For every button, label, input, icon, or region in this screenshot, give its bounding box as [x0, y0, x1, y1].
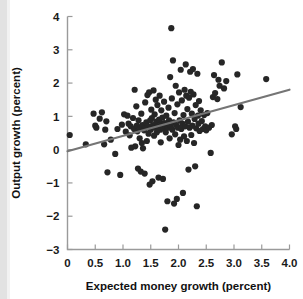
data-point — [93, 125, 99, 131]
data-point — [196, 98, 202, 104]
x-tick-label: 4.0 — [282, 257, 298, 269]
scatter-plot: 00.51.01.52.02.53.03.54.0−3−2−101234Expe… — [0, 0, 303, 299]
y-tick-label: −2 — [46, 210, 59, 222]
data-point — [180, 190, 186, 196]
y-tick-label: 4 — [53, 11, 60, 23]
data-point — [165, 105, 171, 111]
data-point — [150, 87, 156, 93]
data-point — [117, 172, 123, 178]
x-tick-label: 2.5 — [198, 257, 215, 269]
x-tick-label: 3.5 — [254, 257, 271, 269]
data-point — [212, 90, 218, 96]
data-point — [183, 61, 189, 67]
data-point — [168, 25, 174, 31]
x-tick-label: 2.0 — [171, 257, 187, 269]
data-point — [190, 66, 196, 72]
y-axis-title: Output growth (percent) — [10, 67, 22, 199]
data-point — [102, 127, 108, 133]
data-point — [194, 71, 200, 77]
data-point — [233, 126, 239, 132]
data-point — [223, 78, 229, 84]
x-tick-label: 1.0 — [115, 257, 131, 269]
data-point — [67, 132, 73, 138]
data-point — [142, 99, 148, 105]
data-point — [162, 226, 168, 232]
data-point — [172, 110, 178, 116]
data-point — [211, 72, 217, 78]
data-point — [170, 57, 176, 63]
data-point — [178, 67, 184, 73]
data-point — [184, 138, 190, 144]
data-point — [157, 93, 163, 99]
data-point — [215, 77, 221, 83]
data-point — [149, 178, 155, 184]
data-point — [160, 176, 166, 182]
data-point — [190, 91, 196, 97]
data-point — [158, 139, 164, 145]
data-point — [185, 167, 191, 173]
data-point — [133, 103, 139, 109]
data-point — [144, 138, 150, 144]
data-point — [138, 111, 144, 117]
data-point — [234, 71, 240, 77]
data-point — [154, 102, 160, 108]
y-tick-label: −1 — [46, 177, 60, 189]
axes — [68, 17, 290, 250]
x-tick-label: 3.0 — [226, 257, 242, 269]
y-tick-label: −3 — [46, 244, 59, 256]
data-point — [99, 109, 105, 115]
data-point — [229, 131, 235, 137]
chart-figure: 00.51.01.52.02.53.03.54.0−3−2−101234Expe… — [0, 0, 303, 299]
data-point — [119, 122, 125, 128]
data-point — [130, 115, 136, 121]
data-point — [184, 106, 190, 112]
data-point — [114, 126, 120, 132]
data-points — [67, 25, 270, 233]
data-point — [188, 132, 194, 138]
data-point — [194, 203, 200, 209]
data-point — [180, 112, 186, 118]
data-point — [112, 151, 118, 157]
data-point — [263, 76, 269, 82]
data-point — [90, 111, 96, 117]
data-point — [140, 145, 146, 151]
data-point — [172, 131, 178, 137]
x-tick-label: 1.5 — [143, 257, 160, 269]
y-tick-label: 0 — [53, 144, 59, 156]
x-tick-label: 0 — [64, 257, 70, 269]
data-point — [175, 142, 181, 148]
data-point — [219, 59, 225, 65]
y-tick-label: 2 — [53, 77, 59, 89]
data-point — [158, 107, 164, 113]
data-point — [97, 116, 103, 122]
data-point — [192, 163, 198, 169]
data-point — [209, 122, 215, 128]
data-point — [191, 140, 197, 146]
data-point — [173, 83, 179, 89]
data-point — [179, 97, 185, 103]
data-point — [208, 150, 214, 156]
data-point — [142, 171, 148, 177]
data-point — [124, 113, 130, 119]
y-tick-label: 3 — [53, 44, 59, 56]
data-point — [132, 143, 138, 149]
data-point — [167, 74, 173, 80]
data-point — [103, 118, 109, 124]
data-point — [104, 169, 110, 175]
data-point — [152, 111, 158, 117]
data-point — [164, 198, 170, 204]
x-axis-title: Expected money growth (percent) — [86, 280, 271, 292]
data-point — [199, 118, 205, 124]
data-point — [221, 85, 227, 91]
data-point — [214, 96, 220, 102]
data-point — [174, 196, 180, 202]
data-point — [169, 95, 175, 101]
data-point — [161, 99, 167, 105]
data-point — [167, 135, 173, 141]
data-point — [182, 87, 188, 93]
data-point — [132, 87, 138, 93]
y-tick-label: 1 — [53, 111, 60, 123]
data-point — [176, 89, 182, 95]
x-tick-label: 0.5 — [87, 257, 104, 269]
